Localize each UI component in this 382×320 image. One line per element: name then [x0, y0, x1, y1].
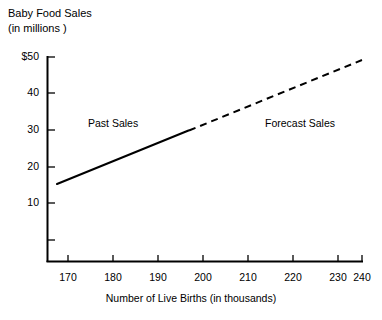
x-tick-label-240: 240: [342, 272, 382, 283]
series-past-sales-line: [57, 131, 189, 185]
y-axis-ticks: [48, 57, 55, 240]
x-axis-caption: Number of Live Births (in thousands): [0, 293, 382, 304]
y-tick-label-50: $50: [5, 51, 39, 62]
chart-figure: Baby Food Sales (in millions ): [0, 0, 382, 320]
x-tick-label-190: 190: [138, 272, 178, 283]
x-tick-label-220: 220: [273, 272, 313, 283]
x-tick-label-180: 180: [93, 272, 133, 283]
y-tick-label-40: 40: [5, 87, 39, 98]
y-tick-label-30: 30: [5, 124, 39, 135]
y-tick-label-20: 20: [5, 161, 39, 172]
y-tick-label-10: 10: [5, 197, 39, 208]
x-tick-label-170: 170: [48, 272, 88, 283]
x-tick-label-200: 200: [183, 272, 223, 283]
x-tick-label-210: 210: [228, 272, 268, 283]
series-label-past-sales: Past Sales: [88, 118, 138, 129]
series-label-forecast-sales: Forecast Sales: [265, 118, 335, 129]
